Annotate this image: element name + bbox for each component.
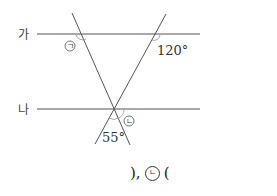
angle-arc-55 bbox=[109, 118, 119, 119]
answer-blanks: ), ㄴ ( bbox=[130, 164, 169, 182]
angle-55-label: 55° bbox=[102, 130, 125, 145]
answer-circled-label: ㄴ bbox=[149, 169, 156, 177]
line-ga-label: 가 bbox=[18, 28, 29, 42]
angle-b-label: ㄴ bbox=[126, 117, 133, 126]
angle-120-label: 120° bbox=[157, 43, 188, 58]
angle-arc-a bbox=[76, 35, 86, 40]
transversal-left bbox=[72, 13, 130, 145]
circled-b-badge-icon: ㄴ bbox=[145, 166, 160, 181]
angle-arc-b bbox=[119, 110, 124, 118]
angle-a-label: ㄱ bbox=[67, 42, 74, 51]
answer-suffix: ( bbox=[164, 164, 170, 182]
line-na-label: 나 bbox=[18, 103, 29, 117]
answer-prefix: ), bbox=[130, 164, 141, 182]
